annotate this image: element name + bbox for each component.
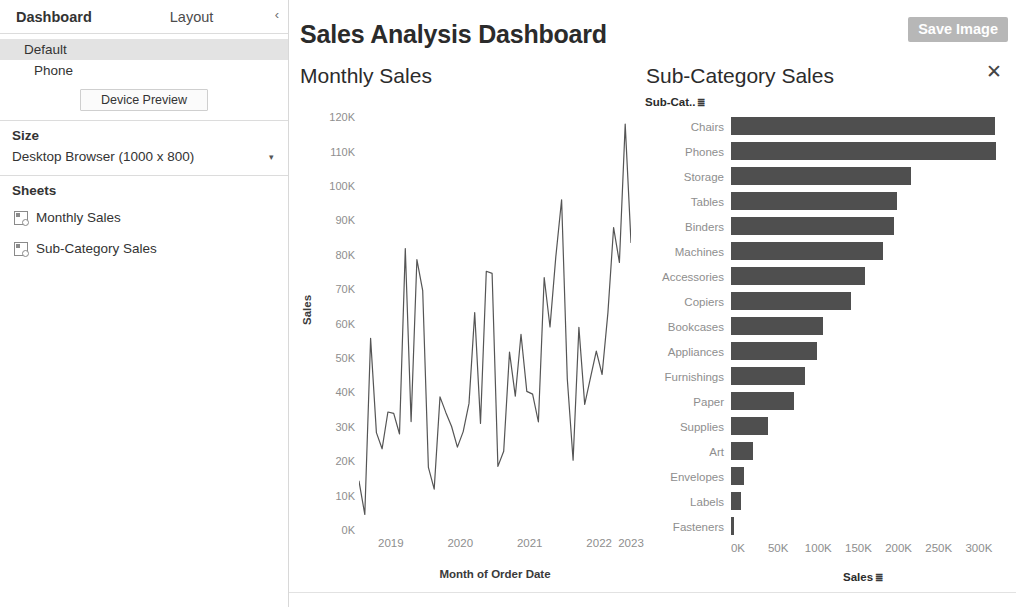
bar[interactable]	[731, 467, 744, 485]
bar-chart-row[interactable]: Tables	[639, 189, 1009, 214]
line-series-svg	[359, 100, 631, 530]
sheet-label: Sub-Category Sales	[36, 241, 157, 256]
sidebar-sheet-sub-category-sales[interactable]: Sub-Category Sales	[0, 233, 288, 264]
bar-chart-row[interactable]: Envelopes	[639, 464, 1009, 489]
bar-chart-row[interactable]: Storage	[639, 164, 1009, 189]
bar-chart-x-tick: 100K	[805, 542, 832, 554]
sort-descending-icon[interactable]: ≣	[875, 572, 883, 583]
bar-chart-row[interactable]: Copiers	[639, 289, 1009, 314]
bar[interactable]	[731, 317, 823, 335]
bar[interactable]	[731, 417, 768, 435]
line-chart-y-tick: 90K	[313, 215, 355, 226]
bar-chart-field-header[interactable]: Sub-Cat..≣	[645, 96, 705, 108]
device-item-default[interactable]: Default	[0, 39, 288, 60]
bar[interactable]	[731, 517, 734, 535]
bar-chart-row[interactable]: Fasteners	[639, 514, 1009, 539]
line-chart-y-tick: 20K	[313, 456, 355, 467]
panel-title-monthly-sales: Monthly Sales	[300, 64, 432, 88]
line-chart-y-tick: 10K	[313, 491, 355, 502]
bar-category-label[interactable]: Accessories	[639, 271, 731, 283]
bar-chart-row[interactable]: Art	[639, 439, 1009, 464]
bar-chart-row[interactable]: Supplies	[639, 414, 1009, 439]
panel-title-sub-category-sales: Sub-Category Sales	[646, 64, 834, 88]
bar-chart-row[interactable]: Machines	[639, 239, 1009, 264]
bar-category-label[interactable]: Appliances	[639, 346, 731, 358]
sales-line-series	[359, 124, 631, 514]
bar-chart-x-axis-label[interactable]: Sales≣	[738, 571, 988, 583]
bar-track	[731, 189, 1009, 214]
bar-track	[731, 264, 1009, 289]
bar[interactable]	[731, 492, 741, 510]
bar-chart-row[interactable]: Accessories	[639, 264, 1009, 289]
bar[interactable]	[731, 142, 996, 160]
bar-chart-row[interactable]: Appliances	[639, 339, 1009, 364]
size-section-title: Size	[0, 128, 288, 147]
tab-layout[interactable]: Layout	[156, 9, 228, 25]
worksheet-icon	[14, 242, 28, 256]
bar-category-label[interactable]: Fasteners	[639, 521, 731, 533]
bar-chart-row[interactable]: Labels	[639, 489, 1009, 514]
bar-chart-x-tick: 300K	[965, 542, 992, 554]
bar-category-label[interactable]: Machines	[639, 246, 731, 258]
close-icon[interactable]: ✕	[986, 62, 1002, 81]
bar[interactable]	[731, 217, 894, 235]
bar-chart-row[interactable]: Binders	[639, 214, 1009, 239]
bar[interactable]	[731, 242, 883, 260]
sub-category-sales-bar-chart: Sub-Cat..≣ ChairsPhonesStorageTablesBind…	[639, 96, 1009, 596]
line-chart-x-tick: 2019	[378, 537, 404, 549]
bar-chart-row[interactable]: Chairs	[639, 114, 1009, 139]
bar[interactable]	[731, 292, 851, 310]
bar[interactable]	[731, 442, 753, 460]
bar-chart-row[interactable]: Furnishings	[639, 364, 1009, 389]
bar-chart-row[interactable]: Paper	[639, 389, 1009, 414]
bar-category-label[interactable]: Phones	[639, 146, 731, 158]
field-header-text: Sub-Cat..	[645, 96, 695, 108]
bar-category-label[interactable]: Supplies	[639, 421, 731, 433]
bar-chart-rows: ChairsPhonesStorageTablesBindersMachines…	[639, 114, 1009, 539]
line-chart-x-axis-ticks: 20192020202120222023	[359, 537, 631, 553]
bar-category-label[interactable]: Copiers	[639, 296, 731, 308]
bar[interactable]	[731, 342, 817, 360]
line-chart-y-tick: 100K	[313, 181, 355, 192]
bar-chart-row[interactable]: Phones	[639, 139, 1009, 164]
bar-track	[731, 164, 1009, 189]
bar[interactable]	[731, 192, 897, 210]
sheet-label: Monthly Sales	[36, 210, 121, 225]
bar[interactable]	[731, 167, 911, 185]
bar-category-label[interactable]: Bookcases	[639, 321, 731, 333]
bar-category-label[interactable]: Labels	[639, 496, 731, 508]
bottom-divider	[289, 592, 1016, 593]
bar-track	[731, 464, 1009, 489]
bar-category-label[interactable]: Paper	[639, 396, 731, 408]
device-preview-button[interactable]: Device Preview	[80, 89, 208, 111]
bar[interactable]	[731, 117, 995, 135]
bar-category-label[interactable]: Chairs	[639, 121, 731, 133]
save-image-button[interactable]: Save Image	[908, 17, 1008, 42]
bar[interactable]	[731, 392, 794, 410]
bar-category-label[interactable]: Binders	[639, 221, 731, 233]
bar-chart-x-tick: 50K	[768, 542, 788, 554]
line-chart-y-tick: 110K	[313, 147, 355, 158]
line-chart-y-axis-ticks: 0K10K20K30K40K50K60K70K80K90K100K110K120…	[305, 100, 355, 530]
line-chart-y-tick: 70K	[313, 284, 355, 295]
bar-category-label[interactable]: Tables	[639, 196, 731, 208]
bar-category-label[interactable]: Art	[639, 446, 731, 458]
chevron-down-icon: ▾	[269, 152, 274, 162]
device-item-phone[interactable]: Phone	[0, 60, 288, 81]
chevron-left-icon[interactable]: ‹	[275, 8, 279, 22]
tab-dashboard[interactable]: Dashboard	[0, 9, 92, 25]
bar[interactable]	[731, 267, 865, 285]
bar-chart-row[interactable]: Bookcases	[639, 314, 1009, 339]
bar-category-label[interactable]: Envelopes	[639, 471, 731, 483]
sidebar-sheet-monthly-sales[interactable]: Monthly Sales	[0, 202, 288, 233]
bar-track	[731, 139, 1009, 164]
bar-track	[731, 514, 1009, 539]
device-layout-list: Default Phone	[0, 34, 288, 81]
sort-descending-icon[interactable]: ≣	[697, 97, 705, 108]
bar-category-label[interactable]: Furnishings	[639, 371, 731, 383]
bar-chart-x-axis-ticks: 0K50K100K150K200K250K300K	[738, 542, 1003, 558]
bar-category-label[interactable]: Storage	[639, 171, 731, 183]
line-chart-y-tick: 60K	[313, 319, 355, 330]
bar[interactable]	[731, 367, 805, 385]
size-dropdown[interactable]: Desktop Browser (1000 x 800) ▾	[12, 147, 280, 166]
